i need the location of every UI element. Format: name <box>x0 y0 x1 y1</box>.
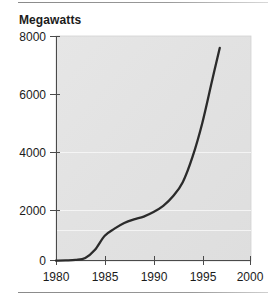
x-tick-1980: 1980 <box>34 270 78 284</box>
y-tick-8000: 8000 <box>6 30 46 44</box>
y-tick-2000: 2000 <box>6 204 46 218</box>
plot-area <box>56 36 251 261</box>
y-tick-6000: 6000 <box>6 88 46 102</box>
x-tick-1990: 1990 <box>132 270 176 284</box>
x-tick-2000: 2000 <box>228 270 272 284</box>
x-tick-1995: 1995 <box>181 270 225 284</box>
x-tick-1985: 1985 <box>83 270 127 284</box>
y-tick-0: 0 <box>6 254 46 268</box>
figure: Megawatts <box>0 0 278 304</box>
y-tick-4000: 4000 <box>6 146 46 160</box>
